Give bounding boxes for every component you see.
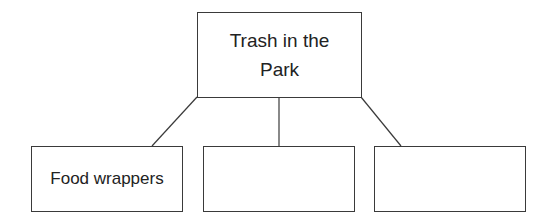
child-node-1-label: Food wrappers <box>50 169 163 189</box>
connector-right <box>361 97 401 146</box>
child-node-2 <box>203 146 355 212</box>
connector-left <box>152 97 197 146</box>
child-node-3 <box>374 146 526 212</box>
child-node-1: Food wrappers <box>31 146 183 212</box>
root-node: Trash in the Park <box>197 12 362 98</box>
root-node-label: Trash in the Park <box>208 26 351 84</box>
